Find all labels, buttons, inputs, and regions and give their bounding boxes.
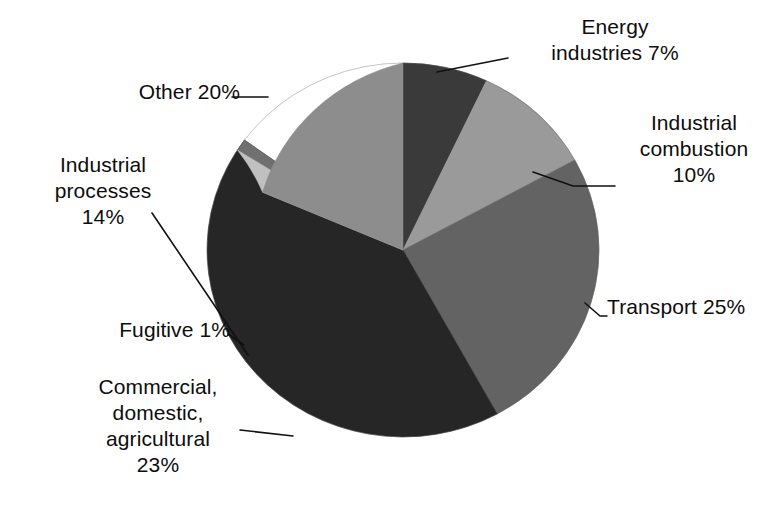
- slice-label-transport: Transport 25%: [607, 294, 775, 320]
- slice-label-industrial-processes: Industrial processes 14%: [8, 152, 198, 230]
- pie-chart-figure: Energy industries 7% Industrial combusti…: [0, 0, 775, 505]
- slice-label-fugitive: Fugitive 1%: [40, 317, 230, 343]
- slice-label-energy-industries: Energy industries 7%: [512, 14, 718, 66]
- slice-label-industrial-combustion: Industrial combustion 10%: [618, 110, 770, 188]
- slice-label-other: Other 20%: [80, 79, 240, 105]
- slice-label-commercial-domestic-agricultural: Commercial, domestic, agricultural 23%: [28, 374, 288, 478]
- leader-line-energy-industries: [437, 58, 508, 72]
